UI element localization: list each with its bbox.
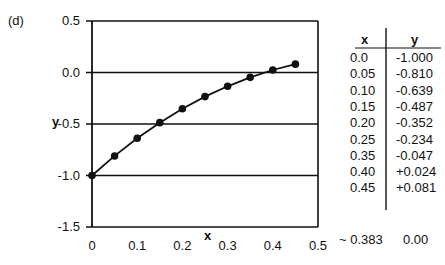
y-tick-label: -1.0 [30, 168, 80, 183]
table-cell-x: 0.35 [350, 148, 375, 163]
table-root-y: 0.00 [403, 232, 428, 247]
table-cell-x: 0.15 [350, 99, 375, 114]
table-cell-x: 0.20 [350, 115, 375, 130]
y-axis-label: y [52, 114, 59, 129]
x-tick-label: 0 [77, 238, 107, 253]
x-tick-label: 0.5 [303, 238, 333, 253]
table-cell-y: -0.639 [396, 83, 433, 98]
table-root-x: ~ 0.383 [339, 232, 383, 247]
table-cell-y: -0.487 [396, 99, 433, 114]
data-point-marker [111, 152, 119, 160]
data-point-marker [88, 172, 96, 180]
table-cell-y: +0.081 [396, 180, 436, 195]
table-header-y: y [411, 32, 418, 47]
data-point-marker [156, 119, 164, 127]
x-axis-label: x [204, 228, 211, 243]
data-point-marker [133, 135, 141, 143]
table-cell-x: 0.40 [350, 164, 375, 179]
table-cell-y: -1.000 [396, 50, 433, 65]
table-cell-y: -0.352 [396, 115, 433, 130]
table-cell-y: -0.810 [396, 66, 433, 81]
data-point-marker [224, 83, 232, 91]
x-tick-label: 0.3 [213, 238, 243, 253]
y-tick-label: 0.0 [30, 65, 80, 80]
data-point-marker [292, 60, 300, 68]
table-cell-y: +0.024 [396, 164, 436, 179]
x-tick-label: 0.2 [167, 238, 197, 253]
x-tick-label: 0.4 [258, 238, 288, 253]
table-cell-x: 0.45 [350, 180, 375, 195]
y-tick-label: -1.5 [30, 219, 80, 234]
table-header-x: x [361, 32, 368, 47]
data-point-marker [179, 105, 187, 113]
table-cell-x: 0.05 [350, 66, 375, 81]
data-point-marker [246, 74, 254, 82]
data-line [92, 64, 295, 175]
table-cell-y: -0.234 [396, 132, 433, 147]
table-cell-x: 0.10 [350, 83, 375, 98]
table-cell-x: 0.0 [350, 50, 368, 65]
y-tick-label: 0.5 [30, 13, 80, 28]
data-point-marker [269, 66, 277, 74]
table-cell-y: -0.047 [396, 148, 433, 163]
x-tick-label: 0.1 [122, 238, 152, 253]
data-point-marker [201, 93, 209, 101]
table-cell-x: 0.25 [350, 132, 375, 147]
